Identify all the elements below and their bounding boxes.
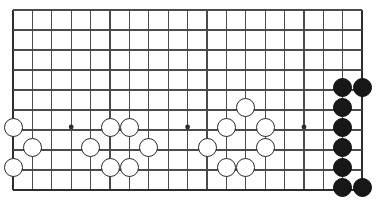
white-stone[interactable]	[236, 98, 255, 117]
white-stone[interactable]	[81, 138, 100, 157]
white-stone[interactable]	[4, 118, 23, 137]
black-stone[interactable]	[333, 138, 352, 157]
go-board-diagram	[0, 0, 377, 202]
white-stone[interactable]	[256, 118, 275, 137]
white-stone[interactable]	[236, 158, 255, 177]
black-stone[interactable]	[353, 78, 372, 97]
star-point	[185, 125, 190, 130]
white-stone[interactable]	[217, 158, 236, 177]
white-stone[interactable]	[101, 118, 120, 137]
white-stone[interactable]	[256, 138, 275, 157]
black-stone[interactable]	[333, 78, 352, 97]
black-stone[interactable]	[333, 118, 352, 137]
star-point	[302, 125, 307, 130]
black-stone[interactable]	[333, 98, 352, 117]
white-stone[interactable]	[120, 118, 139, 137]
white-stone[interactable]	[23, 138, 42, 157]
black-stone[interactable]	[353, 178, 372, 197]
white-stone[interactable]	[139, 138, 158, 157]
white-stone[interactable]	[120, 158, 139, 177]
white-stone[interactable]	[198, 138, 217, 157]
star-point	[69, 125, 74, 130]
white-stone[interactable]	[217, 118, 236, 137]
grid-lines	[13, 10, 362, 190]
black-stone[interactable]	[333, 178, 352, 197]
black-stone[interactable]	[333, 158, 352, 177]
white-stone[interactable]	[101, 158, 120, 177]
go-board-grid	[0, 0, 377, 202]
white-stone[interactable]	[4, 158, 23, 177]
